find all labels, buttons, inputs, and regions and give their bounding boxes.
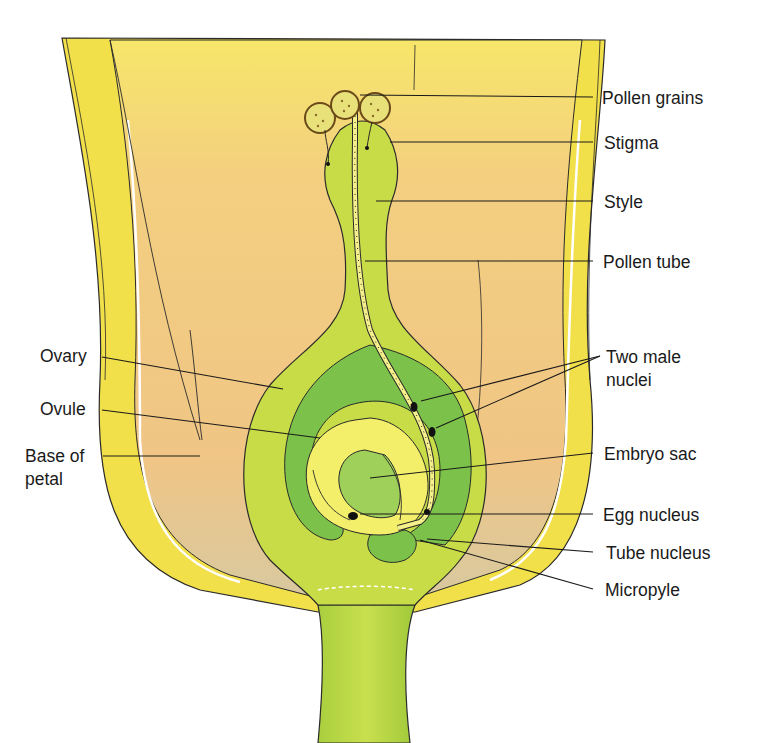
label-base-of-petal-line2: petal: [25, 469, 63, 489]
label-egg-nucleus: Egg nucleus: [603, 505, 699, 525]
label-style: Style: [604, 192, 643, 212]
male-nucleus-2: [429, 427, 436, 437]
label-pollen-grains: Pollen grains: [602, 88, 703, 108]
label-ovule: Ovule: [40, 399, 86, 419]
label-tube-nucleus: Tube nucleus: [606, 543, 710, 563]
label-stigma: Stigma: [604, 133, 658, 153]
label-base-of-petal-line1: Base of: [25, 446, 84, 466]
male-nucleus-1: [411, 402, 418, 412]
label-pollen-tube: Pollen tube: [603, 252, 691, 272]
stem: [318, 605, 415, 743]
label-embryo-sac: Embryo sac: [604, 444, 696, 464]
egg-nucleus: [348, 512, 358, 520]
label-micropyle: Micropyle: [605, 580, 680, 600]
label-ovary: Ovary: [40, 346, 87, 366]
label-two-male-nuclei-line2: nuclei: [606, 370, 652, 390]
label-two-male-nuclei-line1: Two male: [606, 347, 681, 367]
